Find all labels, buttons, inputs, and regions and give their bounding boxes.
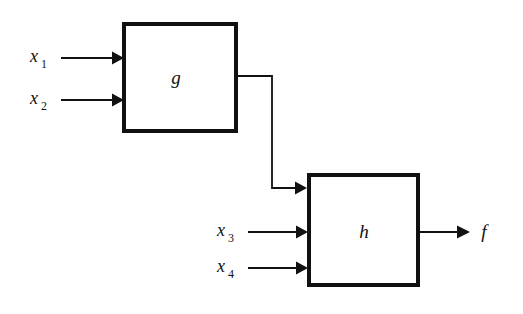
label-x2-subscript: 2 bbox=[41, 99, 47, 113]
connector-wire-g-to-h bbox=[238, 76, 307, 195]
label-x4: x 4 bbox=[216, 256, 234, 281]
label-x1-subscript: 1 bbox=[41, 57, 47, 71]
output-wire-f bbox=[420, 226, 470, 239]
label-x2-base: x bbox=[29, 88, 38, 108]
arrowhead-x4 bbox=[296, 262, 308, 275]
label-x4-base: x bbox=[216, 256, 225, 276]
input-wire-x2 bbox=[61, 94, 124, 107]
diagram-canvas: g h x 1 x 2 bbox=[0, 0, 523, 314]
label-x2: x 2 bbox=[29, 88, 47, 113]
label-x3: x 3 bbox=[216, 220, 234, 245]
label-x3-base: x bbox=[216, 220, 225, 240]
label-x3-subscript: 3 bbox=[228, 231, 234, 245]
block-diagram: g h x 1 x 2 bbox=[0, 0, 523, 314]
label-x1-base: x bbox=[29, 46, 38, 66]
arrowhead-connector bbox=[295, 182, 307, 195]
label-f: f bbox=[481, 221, 489, 242]
input-wire-x4 bbox=[248, 262, 308, 275]
input-wire-x1 bbox=[61, 52, 124, 65]
label-x4-subscript: 4 bbox=[228, 267, 234, 281]
arrowhead-f bbox=[457, 226, 470, 239]
arrowhead-x3 bbox=[296, 226, 308, 239]
block-h-label: h bbox=[359, 221, 369, 242]
input-wire-x3 bbox=[248, 226, 308, 239]
block-g-label: g bbox=[171, 67, 181, 88]
label-x1: x 1 bbox=[29, 46, 47, 71]
